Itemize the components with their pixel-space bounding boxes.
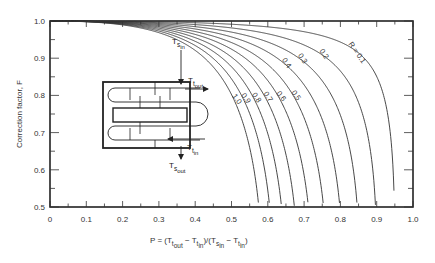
f-curve (50, 21, 308, 202)
y-tick-label: 1.0 (34, 17, 46, 26)
f-curve (50, 21, 258, 203)
x-tick-label: 0.6 (262, 215, 274, 224)
x-tick-label: 1.0 (407, 215, 419, 224)
x-tick-label: 0.7 (299, 215, 311, 224)
x-tick-label: 0.3 (153, 215, 165, 224)
y-tick-label: 0.9 (34, 54, 46, 63)
f-curves (50, 21, 394, 206)
f-curve (50, 21, 269, 203)
axis-ticks: 00.10.20.30.40.50.60.70.80.91.00.50.60.7… (34, 17, 419, 224)
curve-label: 0.7 (262, 90, 275, 104)
x-tick-label: 0.4 (190, 215, 202, 224)
x-axis-title: P = (Ttout − Ttin)/(Tsin − Ttin) (150, 236, 248, 249)
x-tick-label: 0.5 (226, 215, 238, 224)
correction-factor-chart: 00.10.20.30.40.50.60.70.80.91.00.50.60.7… (0, 0, 435, 263)
y-tick-label: 0.7 (34, 129, 46, 138)
f-curve (50, 21, 339, 203)
curve-label: 0.4 (280, 56, 293, 70)
x-tick-label: 0.9 (371, 215, 383, 224)
curve-label: R = 0.1 (347, 40, 368, 65)
y-tick-label: 0.6 (34, 166, 46, 175)
y-tick-label: 0.5 (34, 203, 46, 212)
curve-labels: R = 0.10.20.30.40.50.60.70.80.91.0 (230, 40, 368, 106)
label-tt-in: Ttin (187, 143, 198, 156)
curve-label: 0.5 (290, 88, 303, 102)
curve-label: 0.2 (318, 47, 331, 61)
x-tick-label: 0.2 (117, 215, 129, 224)
exchanger-diagram: TsinTtoutTtinTsout (103, 37, 209, 174)
x-tick-label: 0.8 (335, 215, 347, 224)
curve-label: 0.3 (296, 52, 309, 66)
f-curve (50, 21, 394, 191)
y-axis-title: Correction factor, F (15, 80, 24, 148)
f-curve (50, 21, 281, 204)
f-curve (50, 21, 294, 206)
curve-label: 0.6 (275, 89, 288, 103)
x-tick-label: 0.1 (81, 215, 93, 224)
x-tick-label: 0 (48, 215, 53, 224)
label-ts-out: Tsout (169, 161, 186, 174)
y-tick-label: 0.8 (34, 91, 46, 100)
